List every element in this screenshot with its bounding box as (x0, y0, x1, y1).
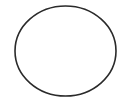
diagram-canvas (0, 0, 122, 106)
diagram-svg (0, 0, 122, 106)
ellipse-shape (15, 6, 116, 96)
